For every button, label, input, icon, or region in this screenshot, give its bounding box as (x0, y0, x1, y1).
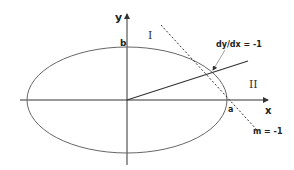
radius-line (127, 61, 248, 100)
ellipse-diagram: y x b a I II dy/dx = -1 m = -1 (0, 0, 294, 170)
pointer-arrow (213, 50, 225, 70)
x-axis-label: x (265, 105, 272, 116)
tangent-point-label: dy/dx = -1 (216, 40, 262, 49)
b-label: b (120, 38, 127, 48)
region-1-label: I (148, 29, 152, 42)
slope-label: m = -1 (253, 127, 283, 136)
a-label: a (228, 105, 233, 114)
region-2-label: II (249, 78, 258, 91)
y-axis-label: y (115, 11, 122, 24)
